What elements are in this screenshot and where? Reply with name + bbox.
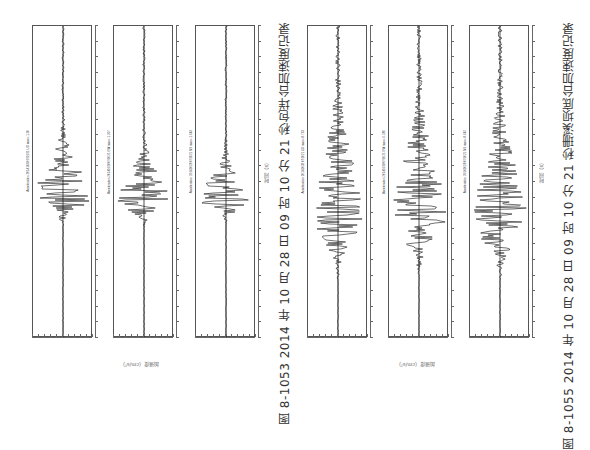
time-tick — [95, 56, 98, 57]
time-tick — [532, 321, 535, 322]
amplitude-tick — [173, 334, 174, 337]
waveform-ew — [114, 26, 174, 338]
time-tick — [176, 56, 179, 57]
time-tick — [95, 337, 98, 338]
time-tick — [370, 212, 373, 213]
time-tick — [451, 103, 454, 104]
time-tick — [532, 197, 535, 198]
seismogram-panel-ew — [388, 25, 448, 337]
time-tick — [258, 197, 261, 198]
time-tick — [95, 134, 98, 135]
amplitude-tick — [231, 334, 232, 337]
time-tick — [451, 72, 454, 73]
time-tick — [451, 306, 454, 307]
amplitude-tick — [143, 334, 144, 337]
amplitude-tick — [430, 334, 431, 337]
time-tick — [176, 275, 179, 276]
panel-title-ns: Acceleration 20141028 091021 NS max=-8.6… — [463, 130, 467, 193]
time-tick — [532, 72, 535, 73]
amplitude-tick — [343, 334, 344, 337]
time-tick — [451, 243, 454, 244]
time-tick — [95, 150, 98, 151]
amplitude-tick — [167, 334, 168, 337]
time-tick — [176, 197, 179, 198]
time-tick — [176, 321, 179, 322]
time-tick — [95, 72, 98, 73]
amplitude-tick — [32, 334, 33, 337]
amplitude-tick — [213, 334, 214, 337]
time-tick — [532, 228, 535, 229]
seismogram-panel-ew — [113, 25, 173, 337]
amplitude-tick — [137, 334, 138, 337]
time-tick — [176, 243, 179, 244]
time-tick — [258, 25, 261, 26]
time-tick — [176, 228, 179, 229]
time-tick — [370, 134, 373, 135]
amplitude-tick — [505, 334, 506, 337]
time-tick — [370, 290, 373, 291]
amplitude-tick — [56, 334, 57, 337]
panel-title-ns: Acceleration 20141028 091021 NS max=-1.6… — [189, 130, 193, 193]
amplitude-tick — [149, 334, 150, 337]
time-tick — [258, 72, 261, 73]
amplitude-tick — [207, 334, 208, 337]
amplitude-axis — [307, 337, 367, 338]
amplitude-tick — [92, 334, 93, 337]
time-tick — [176, 337, 179, 338]
amplitude-axis-label: 加速度（cm/s²） — [396, 362, 435, 369]
time-tick — [451, 87, 454, 88]
time-tick — [176, 150, 179, 151]
amplitude-tick — [125, 334, 126, 337]
amplitude-tick — [394, 334, 395, 337]
time-tick — [258, 275, 261, 276]
time-tick — [370, 181, 373, 182]
time-tick — [258, 290, 261, 291]
time-tick — [95, 25, 98, 26]
amplitude-tick — [62, 334, 63, 337]
amplitude-axis — [113, 337, 173, 338]
waveform-ud — [308, 26, 368, 338]
amplitude-tick — [511, 334, 512, 337]
time-tick — [258, 87, 261, 88]
amplitude-tick — [319, 334, 320, 337]
amplitude-tick — [50, 334, 51, 337]
amplitude-tick — [161, 334, 162, 337]
amplitude-tick — [313, 334, 314, 337]
time-tick — [176, 165, 179, 166]
amplitude-axis — [195, 337, 255, 338]
panel-title-ew: Acceleration 20141028 091021 EW max=-6.2… — [382, 130, 386, 194]
amplitude-tick — [424, 334, 425, 337]
time-tick — [451, 56, 454, 57]
time-tick — [532, 259, 535, 260]
time-tick — [532, 87, 535, 88]
amplitude-tick — [68, 334, 69, 337]
amplitude-tick — [388, 334, 389, 337]
amplitude-tick — [201, 334, 202, 337]
time-tick — [532, 290, 535, 291]
time-tick — [258, 119, 261, 120]
time-tick — [370, 337, 373, 338]
time-tick — [532, 103, 535, 104]
seismogram-panel-ud — [32, 25, 92, 337]
amplitude-tick — [155, 334, 156, 337]
amplitude-axis — [32, 337, 92, 338]
time-tick — [95, 212, 98, 213]
time-tick — [258, 337, 261, 338]
time-tick — [451, 134, 454, 135]
seismogram-panel-ns — [469, 25, 529, 337]
time-tick — [370, 306, 373, 307]
amplitude-tick — [475, 334, 476, 337]
time-tick — [532, 119, 535, 120]
amplitude-tick — [481, 334, 482, 337]
amplitude-tick — [307, 334, 308, 337]
time-tick — [451, 41, 454, 42]
amplitude-tick — [487, 334, 488, 337]
amplitude-tick — [529, 334, 530, 337]
amplitude-tick — [74, 334, 75, 337]
amplitude-tick — [349, 334, 350, 337]
time-tick — [532, 212, 535, 213]
amplitude-tick — [367, 334, 368, 337]
time-tick — [258, 243, 261, 244]
time-tick — [370, 259, 373, 260]
amplitude-tick — [355, 334, 356, 337]
